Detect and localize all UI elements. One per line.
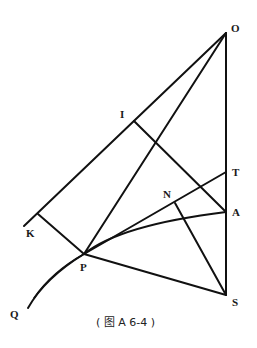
label-A: A bbox=[232, 206, 240, 218]
label-O: O bbox=[231, 22, 240, 34]
label-Q: Q bbox=[10, 308, 19, 320]
geometry-diagram: O I K P Q N T A S ( 图 A 6-4 ) bbox=[0, 0, 257, 348]
line-PS bbox=[84, 254, 226, 295]
label-P: P bbox=[80, 261, 87, 273]
line-OK bbox=[24, 33, 226, 226]
curve-PA bbox=[84, 212, 226, 254]
label-N: N bbox=[163, 188, 171, 200]
label-S: S bbox=[232, 296, 238, 308]
line-OP bbox=[84, 33, 226, 254]
label-K: K bbox=[26, 227, 35, 239]
line-KP bbox=[38, 214, 84, 254]
label-T: T bbox=[232, 166, 240, 178]
line-NS bbox=[175, 203, 226, 295]
curve-QP-inner bbox=[34, 254, 84, 298]
figure-caption: ( 图 A 6-4 ) bbox=[96, 316, 155, 329]
label-I: I bbox=[120, 108, 124, 120]
curve-QP bbox=[28, 254, 84, 308]
